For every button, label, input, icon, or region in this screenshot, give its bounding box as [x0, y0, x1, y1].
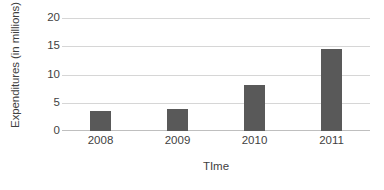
y-axis-tick-label: 0 — [34, 125, 60, 137]
y-axis-tick-label: 10 — [34, 69, 60, 81]
bar-chart: Expenditures (in millions) 05101520 2008… — [0, 0, 384, 190]
bar[interactable] — [244, 85, 265, 131]
bar-slot — [139, 18, 216, 131]
bar[interactable] — [321, 49, 342, 131]
bars-group — [62, 18, 370, 131]
bar[interactable] — [90, 111, 111, 131]
y-axis-tick-labels: 05101520 — [32, 0, 60, 190]
plot-area — [62, 18, 370, 131]
x-axis-title: TIme — [62, 160, 370, 172]
x-axis-tick-label: 2008 — [62, 134, 139, 146]
bar-slot — [62, 18, 139, 131]
x-axis-tick-label: 2009 — [139, 134, 216, 146]
bar-slot — [293, 18, 370, 131]
y-axis-tick-label: 15 — [34, 40, 60, 52]
bar[interactable] — [167, 109, 188, 131]
y-axis-tick-label: 5 — [34, 97, 60, 109]
y-axis-tick-label: 20 — [34, 12, 60, 24]
bar-slot — [216, 18, 293, 131]
x-axis-tick-labels: 2008200920102011 — [62, 134, 370, 146]
x-axis-tick-label: 2010 — [216, 134, 293, 146]
y-axis-title: Expenditures (in millions) — [9, 0, 29, 140]
x-axis-tick-label: 2011 — [293, 134, 370, 146]
